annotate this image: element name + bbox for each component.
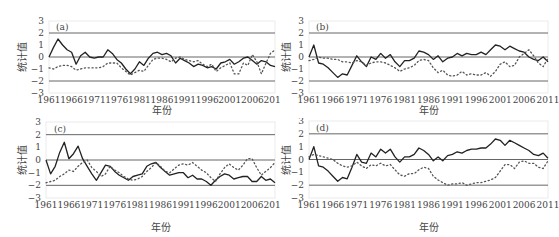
x-tick-label: 1991 <box>172 200 195 210</box>
x-tick-label: 1986 <box>417 200 440 210</box>
x-tick-label: 1961 <box>298 200 321 210</box>
x-tick-label: 2011 <box>264 200 280 210</box>
y-tick-label: 1 <box>298 142 304 152</box>
chart-panel-a: 3210−1−2−3196119661971197619811986199119… <box>0 0 280 118</box>
panel-label: (b) <box>316 22 329 32</box>
y-tick-label: −1 <box>291 64 304 74</box>
series-line-ub <box>309 50 548 76</box>
y-tick-label: −2 <box>31 76 44 86</box>
y-tick-label: 2 <box>38 28 44 38</box>
x-tick-label: 2006 <box>241 200 264 210</box>
panel-label: (c) <box>54 124 66 134</box>
y-axis-label: 统计值 <box>16 42 28 72</box>
x-axis-label: 年份 <box>152 104 172 116</box>
x-tick-label: 1991 <box>441 200 464 210</box>
x-tick-label: 2006 <box>513 95 536 105</box>
x-tick-label: 1966 <box>321 200 344 210</box>
x-tick-label: 1971 <box>345 200 368 210</box>
chart-svg-d: 3210−1−2−3196119661971197619811986199119… <box>280 118 559 237</box>
x-tick-label: 1971 <box>80 200 103 210</box>
x-tick-label: 1976 <box>103 200 126 210</box>
x-tick-label: 2001 <box>218 95 241 105</box>
x-tick-label: 2001 <box>489 95 512 105</box>
y-tick-label: −2 <box>28 180 41 190</box>
x-tick-label: 2001 <box>489 200 512 210</box>
y-tick-label: 1 <box>35 142 41 152</box>
y-tick-label: 2 <box>298 28 304 38</box>
x-tick-label: 1981 <box>393 200 416 210</box>
y-tick-label: −1 <box>31 64 44 74</box>
y-tick-label: 2 <box>298 129 304 139</box>
x-tick-label: 1981 <box>393 95 416 105</box>
chart-panel-d: 3210−1−2−3196119661971197619811986199119… <box>280 118 559 237</box>
x-tick-label: 1996 <box>465 95 488 105</box>
x-tick-label: 1961 <box>38 95 61 105</box>
x-tick-label: 1996 <box>196 95 219 105</box>
x-tick-label: 2001 <box>218 200 241 210</box>
x-tick-label: 1966 <box>60 95 83 105</box>
series-line-ub <box>46 159 275 183</box>
y-axis-label: 统计值 <box>280 42 292 72</box>
series-line-uf <box>49 39 275 74</box>
x-tick-label: 1966 <box>57 200 80 210</box>
x-tick-label: 1981 <box>128 95 151 105</box>
chart-svg-a: 3210−1−2−3196119661971197619811986199119… <box>0 0 280 118</box>
x-tick-label: 1976 <box>105 95 128 105</box>
y-axis-label: 统计值 <box>16 145 28 175</box>
y-tick-label: 1 <box>298 40 304 50</box>
y-tick-label: 3 <box>35 118 41 127</box>
chart-panel-b: 3210−1−2−3196119661971197619811986199119… <box>280 0 559 118</box>
x-tick-label: 2006 <box>513 200 536 210</box>
chart-svg-b: 3210−1−2−3196119661971197619811986199119… <box>280 0 559 118</box>
x-tick-label: 1961 <box>298 95 321 105</box>
x-axis-label: 年份 <box>151 221 171 233</box>
x-tick-label: 1976 <box>369 200 392 210</box>
chart-panel-c: 3210−1−2−3196119661971197619811986199119… <box>0 118 280 237</box>
y-tick-label: −1 <box>28 168 41 178</box>
y-tick-label: 3 <box>298 16 304 26</box>
x-tick-label: 2011 <box>537 95 559 105</box>
x-tick-label: 1986 <box>417 95 440 105</box>
x-tick-label: 1981 <box>126 200 149 210</box>
x-tick-label: 1976 <box>369 95 392 105</box>
y-tick-label: 1 <box>38 40 44 50</box>
x-tick-label: 1971 <box>83 95 106 105</box>
x-tick-label: 1996 <box>465 200 488 210</box>
x-tick-label: 1986 <box>151 95 174 105</box>
x-tick-label: 2006 <box>241 95 264 105</box>
y-tick-label: −2 <box>291 76 304 86</box>
panel-label: (d) <box>316 123 329 133</box>
x-axis-label: 年份 <box>419 104 439 116</box>
y-tick-label: 0 <box>38 52 44 62</box>
y-axis-label: 统计值 <box>280 145 292 175</box>
x-tick-label: 1971 <box>345 95 368 105</box>
x-tick-label: 1991 <box>441 95 464 105</box>
x-tick-label: 2011 <box>537 200 559 210</box>
panel-label: (a) <box>56 22 68 32</box>
x-tick-label: 1961 <box>35 200 58 210</box>
y-tick-label: 3 <box>38 16 44 26</box>
x-tick-label: 1996 <box>195 200 218 210</box>
x-tick-label: 1986 <box>149 200 172 210</box>
y-tick-label: 0 <box>298 52 304 62</box>
y-tick-label: −1 <box>291 167 304 177</box>
x-tick-label: 2011 <box>264 95 280 105</box>
x-tick-label: 1966 <box>321 95 344 105</box>
y-tick-label: 2 <box>35 130 41 140</box>
y-tick-label: −2 <box>291 180 304 190</box>
series-line-uf <box>309 139 548 181</box>
y-tick-label: 0 <box>35 155 41 165</box>
y-tick-label: 0 <box>298 155 304 165</box>
y-tick-label: 3 <box>298 118 304 126</box>
x-tick-label: 1991 <box>173 95 196 105</box>
x-axis-label: 年份 <box>419 221 439 233</box>
chart-svg-c: 3210−1−2−3196119661971197619811986199119… <box>0 118 280 237</box>
